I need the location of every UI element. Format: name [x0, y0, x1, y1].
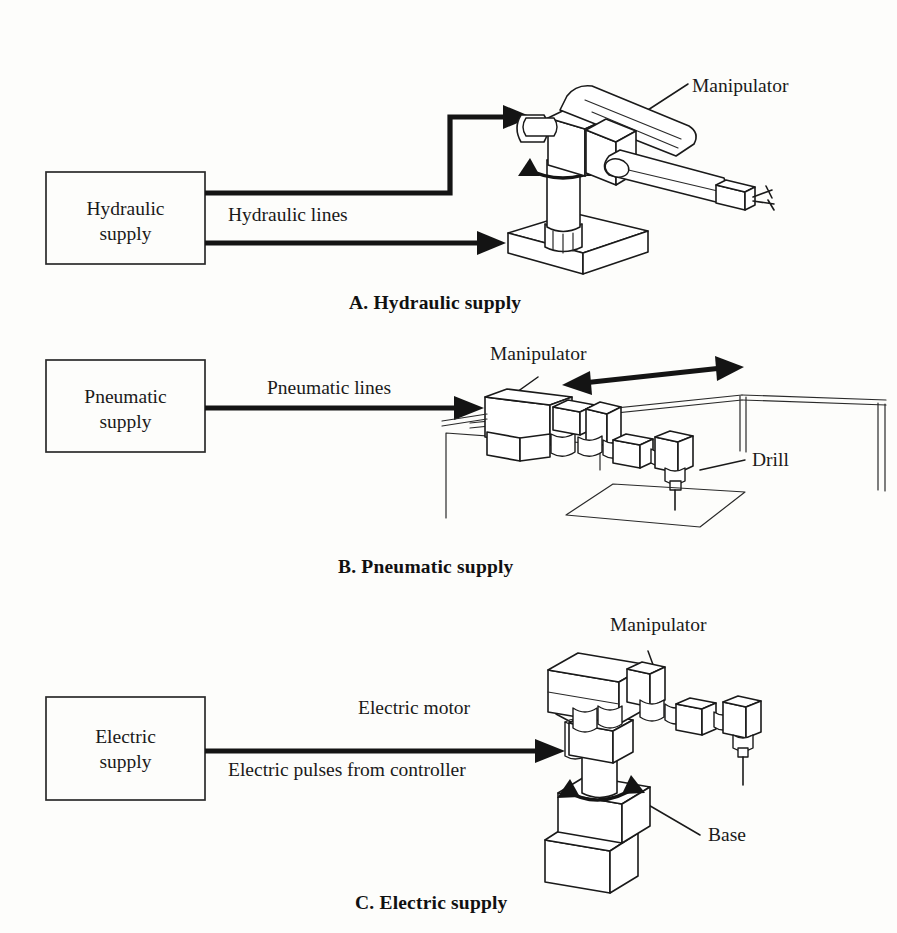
- callout-drill-b: Drill: [752, 448, 789, 473]
- hydraulic-lines-label: Hydraulic lines: [228, 203, 348, 228]
- supply-label-line2: supply: [99, 223, 151, 244]
- supply-label-line2: supply: [99, 751, 151, 772]
- callout-manipulator-a: Manipulator: [692, 74, 788, 99]
- pneumatic-supply-box-label: Pneumatic supply: [46, 384, 205, 435]
- hydraulic-supply-box-label: Hydraulic supply: [46, 196, 205, 247]
- travel-arrow-b: [562, 356, 744, 395]
- electric-pulses-label: Electric pulses from controller: [228, 758, 466, 783]
- supply-label-line1: Pneumatic: [84, 386, 166, 407]
- callout-leader-drill-b: [700, 460, 745, 470]
- robot-arm-c: [545, 653, 761, 893]
- hydraulic-line-upper: [205, 105, 532, 193]
- callout-manipulator-b: Manipulator: [490, 342, 586, 367]
- pneumatic-lines-label: Pneumatic lines: [267, 376, 391, 401]
- caption-panel-b: B. Pneumatic supply: [338, 556, 514, 578]
- caption-panel-c: C. Electric supply: [355, 892, 508, 914]
- hydraulic-line-lower: [205, 231, 506, 255]
- robot-arm-b: [442, 389, 745, 527]
- supply-label-line1: Hydraulic: [87, 198, 165, 219]
- supply-label-line2: supply: [99, 411, 151, 432]
- callout-base-c: Base: [708, 823, 746, 848]
- panel-b-artwork: [46, 356, 886, 527]
- callout-manipulator-c: Manipulator: [610, 613, 706, 638]
- robot-arm-a: [508, 86, 774, 274]
- supply-label-line1: Electric: [95, 726, 156, 747]
- figure-sheet: Hydraulic supply Hydraulic lines Manipul…: [0, 0, 897, 933]
- callout-electric-motor-c: Electric motor: [358, 696, 470, 721]
- caption-panel-a: A. Hydraulic supply: [349, 292, 521, 314]
- electric-supply-box-label: Electric supply: [46, 724, 205, 775]
